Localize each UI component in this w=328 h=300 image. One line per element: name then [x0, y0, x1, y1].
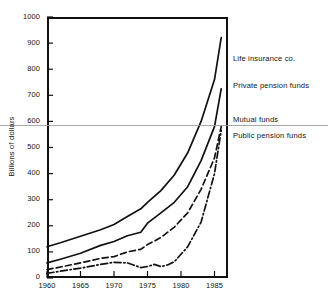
xtick-label-1965: 1965 [64, 282, 98, 290]
xtick-label-1975: 1975 [131, 282, 165, 290]
series-line-private-pension [47, 89, 221, 263]
y-axis-title: Billions of dollars [7, 105, 16, 189]
ytick-label-900: 900 [12, 39, 40, 47]
scan-artifact-line [0, 125, 328, 126]
ytick-label-600: 600 [12, 117, 40, 125]
ytick-label-500: 500 [12, 143, 40, 151]
ytick-label-200: 200 [12, 221, 40, 229]
xtick-label-1960: 1960 [30, 282, 64, 290]
y-axis-ticks [47, 17, 53, 278]
series-label-public-pension: Public pension funds [233, 131, 306, 140]
series-label-life-insurance: Life insurance co. [233, 54, 295, 63]
ytick-label-400: 400 [12, 169, 40, 177]
ytick-label-300: 300 [12, 195, 40, 203]
xtick-label-1985: 1985 [198, 282, 232, 290]
x-axis-ticks [47, 271, 215, 278]
ytick-label-800: 800 [12, 65, 40, 73]
series-label-mutual-funds: Mutual funds [233, 115, 278, 124]
ytick-label-700: 700 [12, 91, 40, 99]
xtick-label-1980: 1980 [164, 282, 198, 290]
series-line-public-pension [47, 131, 221, 274]
chart-canvas [0, 0, 328, 300]
ytick-label-1000: 1000 [12, 13, 40, 21]
chart-figure: 1000 900 800 700 600 500 400 300 200 100… [0, 0, 328, 300]
series-line-life-insurance [47, 38, 221, 247]
series-label-private-pension: Private pension funds [233, 81, 309, 90]
ytick-label-100: 100 [12, 247, 40, 255]
series-line-mutual-funds [47, 127, 221, 270]
xtick-label-1970: 1970 [97, 282, 131, 290]
ytick-label-0: 0 [12, 273, 40, 281]
